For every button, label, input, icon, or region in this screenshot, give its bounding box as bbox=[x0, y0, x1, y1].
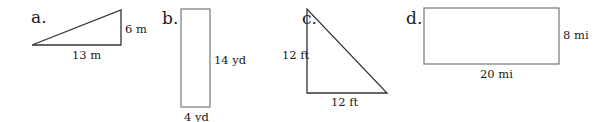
figure-a-base-label: 13 m bbox=[72, 48, 101, 62]
figure-c-base-label: 12 ft bbox=[331, 95, 359, 109]
figure-c-triangle bbox=[307, 9, 387, 93]
figure-a-label: a. bbox=[31, 7, 47, 27]
figure-b: b. 14 yd 4 yd bbox=[162, 8, 247, 122]
figure-c-height-label: 12 ft bbox=[282, 48, 310, 62]
figure-d-label: d. bbox=[406, 8, 422, 28]
figure-a-height-label: 6 m bbox=[125, 22, 147, 36]
figure-a: a. 6 m 13 m bbox=[31, 7, 147, 62]
figure-d-rectangle bbox=[424, 8, 559, 64]
geometry-figures: a. 6 m 13 m b. 14 yd 4 yd c. 12 ft 12 ft… bbox=[0, 0, 614, 122]
figure-d-width-label: 20 mi bbox=[480, 67, 513, 81]
figure-c: c. 12 ft 12 ft bbox=[282, 8, 387, 109]
figure-b-label: b. bbox=[162, 8, 178, 28]
figure-d: d. 8 mi 20 mi bbox=[406, 8, 589, 81]
figure-b-width-label: 4 yd bbox=[184, 110, 209, 122]
figure-d-height-label: 8 mi bbox=[563, 28, 589, 42]
figure-b-rectangle bbox=[181, 9, 210, 107]
figure-b-height-label: 14 yd bbox=[214, 53, 247, 67]
